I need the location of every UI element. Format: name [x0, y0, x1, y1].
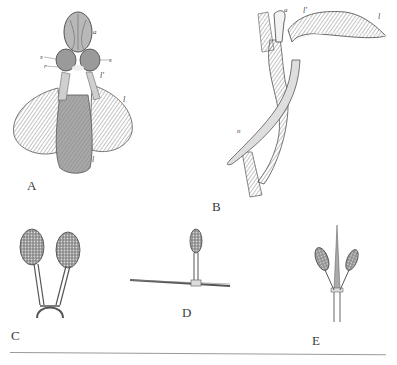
figure-d-pollinium-needle	[130, 229, 230, 286]
annotation-l-prime-b: l'	[303, 6, 307, 15]
figure-label-c: C	[11, 328, 20, 344]
figure-label-e: E	[312, 333, 320, 349]
figure-label-a: A	[27, 178, 36, 194]
annotation-a: a	[93, 28, 97, 36]
annotation-l-lateral: l	[123, 95, 125, 104]
annotation-l-lip: l	[92, 155, 94, 164]
annotation-r: r	[44, 62, 47, 70]
figure-label-b: B	[212, 199, 221, 215]
annotation-l-b: l	[378, 12, 380, 21]
annotation-a-b: a	[284, 6, 288, 14]
figure-e-pollinia-stalk	[312, 225, 360, 322]
plate-illustrations	[0, 0, 397, 365]
figure-label-d: D	[182, 305, 191, 321]
annotation-n: n	[237, 127, 241, 135]
annotation-s-left: s	[40, 53, 43, 61]
figure-b-flower-side	[227, 11, 386, 197]
annotation-l-prime: l'	[100, 71, 104, 80]
annotation-s-right: s	[109, 56, 112, 64]
figure-a-flower	[13, 12, 132, 173]
figure-c-pollinia-pair	[20, 229, 80, 318]
botanical-plate: a s r s l' l l a l' l n A B C D E	[0, 0, 397, 365]
